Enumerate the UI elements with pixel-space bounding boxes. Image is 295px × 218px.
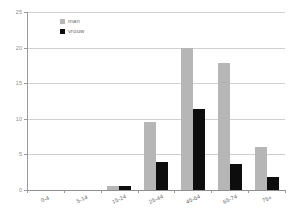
bar-groups: [27, 12, 285, 190]
x-label-cell: 75+: [248, 194, 285, 216]
legend-swatch-icon-vrouw: [60, 29, 65, 34]
bar-vrouw: [267, 177, 279, 190]
legend: man vrouw: [60, 17, 84, 37]
x-tick-label: 15-24: [111, 193, 127, 205]
bar-man: [181, 48, 193, 190]
legend-label-vrouw: vrouw: [68, 28, 84, 35]
y-tick-label: 15: [0, 80, 22, 86]
x-tick-mark: [64, 190, 65, 193]
x-tick-mark: [285, 190, 286, 193]
x-tick-label: 65-74: [222, 193, 238, 205]
x-tick-mark: [248, 190, 249, 193]
bar-vrouw: [193, 109, 205, 190]
y-tick-label: 20: [0, 45, 22, 51]
legend-item-vrouw: vrouw: [60, 27, 84, 36]
x-tick-mark: [27, 190, 28, 193]
bar-group: [174, 12, 211, 190]
y-tick-label: 25: [0, 9, 22, 15]
x-label-cell: 15-24: [101, 194, 138, 216]
bar-vrouw: [156, 162, 168, 190]
bar-vrouw: [230, 164, 242, 190]
y-tick-label: 0: [0, 187, 22, 193]
x-tick-mark: [101, 190, 102, 193]
bar-group: [138, 12, 175, 190]
bar-man: [144, 122, 156, 190]
y-tick-label: 5: [0, 151, 22, 157]
x-tick-label: 5-14: [76, 194, 89, 204]
x-tick-mark: [211, 190, 212, 193]
x-label-cell: 45-64: [174, 194, 211, 216]
bar-group: [64, 12, 101, 190]
bar-chart: 0510152025 0-45-1415-2425-4445-6465-7475…: [0, 0, 295, 218]
bar-man: [255, 147, 267, 190]
x-label-cell: 0-4: [27, 194, 64, 216]
x-axis-labels: 0-45-1415-2425-4445-6465-7475+: [27, 194, 285, 216]
y-tick-label: 10: [0, 116, 22, 122]
x-tick-label: 25-44: [148, 193, 164, 205]
legend-label-man: man: [68, 18, 80, 25]
x-tick-mark: [174, 190, 175, 193]
bar-group: [248, 12, 285, 190]
x-tick-label: 0-4: [40, 195, 50, 204]
bar-man: [218, 63, 230, 190]
bar-group: [101, 12, 138, 190]
x-label-cell: 5-14: [64, 194, 101, 216]
x-tick-mark: [138, 190, 139, 193]
bar-group: [27, 12, 64, 190]
x-label-cell: 65-74: [211, 194, 248, 216]
x-label-cell: 25-44: [138, 194, 175, 216]
bar-group: [211, 12, 248, 190]
legend-item-man: man: [60, 17, 84, 26]
x-tick-label: 45-64: [185, 193, 201, 205]
x-tick-label: 75+: [261, 194, 273, 204]
legend-swatch-icon-man: [60, 19, 65, 24]
